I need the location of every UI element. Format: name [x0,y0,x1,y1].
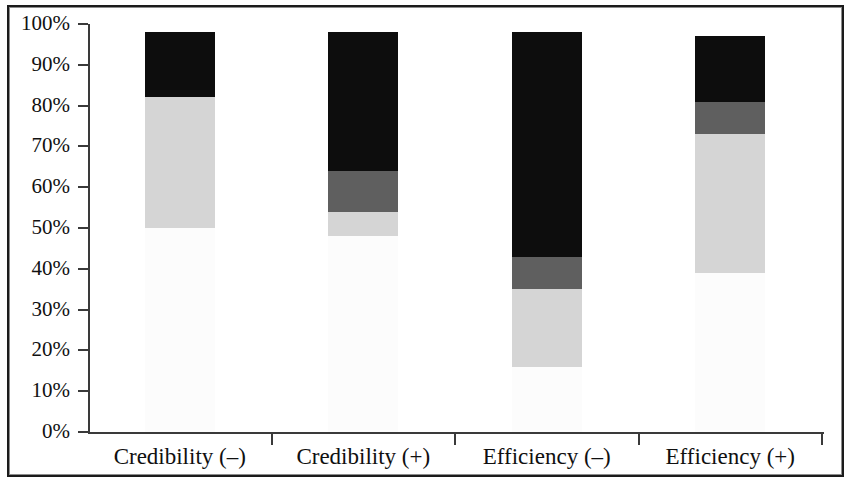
bar-segment[interactable] [512,32,582,256]
y-axis-tick-label: 40% [0,258,70,279]
bar-segment[interactable] [328,212,398,236]
y-axis-tick-label: 70% [0,135,70,156]
bar-1[interactable] [145,24,215,432]
plot-area [88,24,822,432]
bar-segment[interactable] [695,36,765,101]
figure-container: 100%90%80%70%60%50%40%30%20%10%0% Credib… [0,0,851,485]
bar-segment[interactable] [512,257,582,290]
y-axis-tick [78,186,88,188]
x-axis-line [88,432,824,434]
bar-segment[interactable] [328,236,398,432]
y-axis-tick-label: 10% [0,380,70,401]
y-axis-tick-label: 90% [0,54,70,75]
bar-segment[interactable] [695,273,765,432]
y-axis-tick [78,309,88,311]
y-axis-tick-label: 80% [0,95,70,116]
y-axis-tick-label: 50% [0,217,70,238]
x-axis-category-label: Credibility (+) [272,444,456,470]
y-axis-tick [78,23,88,25]
y-axis-tick-label: 0% [0,421,70,442]
x-axis-category-label: Efficiency (+) [639,444,823,470]
y-axis-tick [78,64,88,66]
bar-segment[interactable] [512,367,582,432]
bar-2[interactable] [328,24,398,432]
y-axis-tick-label: 20% [0,339,70,360]
stacked-bar-chart: 100%90%80%70%60%50%40%30%20%10%0% Credib… [0,0,851,485]
y-axis-tick [78,268,88,270]
bar-3[interactable] [512,24,582,432]
y-axis-tick-label: 30% [0,299,70,320]
y-axis-tick-label: 60% [0,176,70,197]
bar-segment[interactable] [695,102,765,135]
y-axis-tick-label: 100% [0,13,70,34]
x-axis-category-label: Efficiency (–) [455,444,639,470]
y-axis-tick [78,145,88,147]
x-axis-category-label: Credibility (–) [88,444,272,470]
bar-segment[interactable] [328,171,398,212]
bar-segment[interactable] [695,134,765,273]
y-axis-tick [78,349,88,351]
y-axis-tick [78,227,88,229]
y-axis-tick [78,105,88,107]
bar-segment[interactable] [145,228,215,432]
bar-segment[interactable] [512,289,582,367]
y-axis-tick [78,431,88,433]
bar-segment[interactable] [145,32,215,97]
y-axis-tick [78,390,88,392]
bar-4[interactable] [695,24,765,432]
bar-segment[interactable] [145,97,215,228]
bar-segment[interactable] [328,32,398,171]
